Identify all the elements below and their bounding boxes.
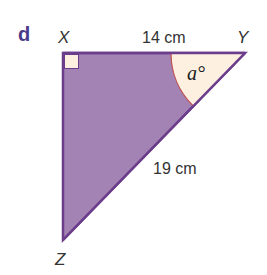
question-label: d xyxy=(18,23,30,45)
vertex-z-label: Z xyxy=(54,250,66,269)
vertex-y-label: Y xyxy=(237,28,250,47)
triangle-diagram: d X Y Z 14 cm 19 cm a° xyxy=(0,0,267,275)
vertex-x-label: X xyxy=(57,28,70,47)
side-yz-length: 19 cm xyxy=(153,160,197,177)
angle-a-label: a° xyxy=(187,62,205,84)
diagram-canvas: d X Y Z 14 cm 19 cm a° xyxy=(0,0,267,275)
right-angle-marker xyxy=(65,55,79,69)
side-xy-length: 14 cm xyxy=(142,29,186,46)
